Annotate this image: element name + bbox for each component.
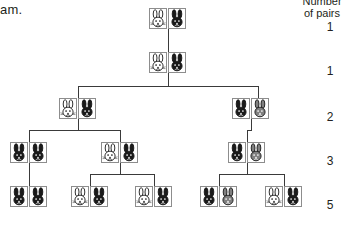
rabbit-pair-gen2-1 (149, 52, 186, 73)
rabbit-cell-black (29, 186, 47, 207)
rabbit-cell-black (10, 186, 28, 207)
rabbit-cell-white (71, 186, 89, 207)
left-cut-text: am. (0, 2, 22, 17)
header-line-1: Number (294, 0, 350, 7)
number-of-pairs-header: Number of pairs (294, 0, 350, 19)
gen3-right-stem-down (251, 119, 252, 130)
rabbit-cell-white (265, 186, 283, 207)
pair-count-gen4: 3 (322, 154, 338, 168)
rabbit-glyph (121, 143, 137, 162)
rabbit-glyph (102, 143, 118, 162)
rabbit-glyph (248, 143, 264, 162)
gen5-p2-drop (90, 174, 91, 186)
rabbit-pair-gen3-2 (232, 98, 269, 119)
rabbit-glyph (220, 187, 236, 206)
rabbit-cell-black (284, 186, 302, 207)
rabbit-cell-gray (219, 186, 237, 207)
rabbit-cell-white (135, 186, 153, 207)
rabbit-glyph (30, 143, 46, 162)
diagram-canvas: am. Number of pairs (0, 0, 352, 225)
rabbit-cell-black (120, 142, 138, 163)
rabbit-glyph (91, 187, 107, 206)
rabbit-glyph (60, 99, 76, 118)
pair-count-gen1: 1 (322, 20, 338, 34)
rabbit-cell-black (90, 186, 108, 207)
gen4-p3-drop (247, 130, 248, 142)
gen3-right-drop (258, 86, 259, 98)
gen3-left-drop (78, 86, 79, 98)
rabbit-glyph (72, 187, 88, 206)
rabbit-cell-gray (251, 98, 269, 119)
rabbit-cell-white (59, 98, 77, 119)
rabbit-glyph (266, 187, 282, 206)
rabbit-cell-black (228, 142, 246, 163)
rabbit-pair-gen5-3 (135, 186, 172, 207)
rabbit-cell-white (149, 8, 167, 29)
rabbit-glyph (201, 187, 217, 206)
gen2-to-gen3-bar (78, 86, 258, 87)
gen4-p1-stem-down (29, 163, 30, 174)
rabbit-glyph (79, 99, 95, 118)
rabbit-glyph (229, 143, 245, 162)
rabbit-cell-black (168, 52, 186, 73)
rabbit-cell-black (232, 98, 250, 119)
gen4-p2-to-gen5-bar (90, 174, 154, 175)
rabbit-cell-gray (247, 142, 265, 163)
rabbit-glyph (136, 187, 152, 206)
rabbit-glyph (150, 9, 166, 28)
gen4-p3-to-gen5-bar (219, 174, 284, 175)
rabbit-pair-gen5-2 (71, 186, 108, 207)
gen5-p1-drop (29, 174, 30, 186)
rabbit-glyph (233, 99, 249, 118)
gen2-stem-down (168, 73, 169, 86)
rabbit-glyph (252, 99, 268, 118)
rabbit-pair-gen4-1 (10, 142, 47, 163)
rabbit-cell-black (78, 98, 96, 119)
gen3-left-stem-down (78, 119, 79, 130)
gen5-p3-drop (154, 174, 155, 186)
rabbit-cell-black (10, 142, 28, 163)
rabbit-glyph (169, 53, 185, 72)
gen4-p1-drop (29, 130, 30, 142)
rabbit-pair-gen5-4 (200, 186, 237, 207)
pair-count-gen2: 1 (322, 64, 338, 78)
header-line-2: of pairs (294, 7, 350, 19)
rabbit-cell-black (200, 186, 218, 207)
rabbit-pair-gen5-5 (265, 186, 302, 207)
rabbit-cell-white (101, 142, 119, 163)
rabbit-pair-gen4-3 (228, 142, 265, 163)
rabbit-glyph (30, 187, 46, 206)
gen4-p2-drop (120, 130, 121, 142)
gen3-left-to-gen4-bar (29, 130, 120, 131)
rabbit-cell-black (168, 8, 186, 29)
rabbit-pair-gen3-1 (59, 98, 96, 119)
rabbit-glyph (285, 187, 301, 206)
gen5-p5-drop (284, 174, 285, 186)
gen5-p4-drop (219, 174, 220, 186)
rabbit-cell-black (154, 186, 172, 207)
rabbit-pair-gen5-1 (10, 186, 47, 207)
rabbit-glyph (169, 9, 185, 28)
rabbit-glyph (11, 143, 27, 162)
rabbit-cell-black (29, 142, 47, 163)
rabbit-glyph (11, 187, 27, 206)
rabbit-glyph (155, 187, 171, 206)
rabbit-pair-gen1-1 (149, 8, 186, 29)
rabbit-cell-white (149, 52, 167, 73)
rabbit-pair-gen4-2 (101, 142, 138, 163)
rabbit-glyph (150, 53, 166, 72)
pair-count-gen5: 5 (322, 198, 338, 212)
gen1-to-gen2-stem (168, 29, 169, 52)
gen4-p2-stem-down (120, 163, 121, 174)
gen4-p3-stem-down (247, 163, 248, 174)
pair-count-gen3: 2 (322, 110, 338, 124)
